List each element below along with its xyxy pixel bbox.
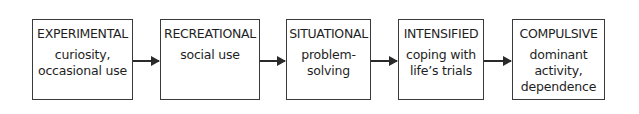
desc-line: problem- (287, 47, 370, 63)
desc-line: life’s trials (399, 63, 483, 79)
stage-description: coping with life’s trials (399, 47, 483, 79)
arrow-icon (371, 60, 397, 62)
arrow-icon (484, 60, 511, 62)
stage-description: problem- solving (287, 47, 370, 79)
desc-line: occasional use (33, 63, 132, 79)
stage-description: social use (161, 47, 259, 63)
stage-intensified: INTENSIFIED coping with life’s trials (398, 19, 484, 100)
arrow-icon (260, 60, 285, 62)
desc-line: curiosity, (33, 47, 132, 63)
stage-title: EXPERIMENTAL (33, 26, 132, 41)
stage-title: COMPULSIVE (513, 26, 604, 41)
desc-line: coping with (399, 47, 483, 63)
stage-compulsive: COMPULSIVE dominant activity, dependence (512, 19, 605, 100)
stage-title: INTENSIFIED (399, 26, 483, 41)
desc-line: social use (161, 47, 259, 63)
stage-recreational: RECREATIONAL social use (160, 19, 260, 100)
desc-line: solving (287, 63, 370, 79)
stage-situational: SITUATIONAL problem- solving (286, 19, 371, 100)
stage-title: SITUATIONAL (287, 26, 370, 41)
desc-line: dependence (513, 79, 604, 95)
stage-description: curiosity, occasional use (33, 47, 132, 79)
arrow-icon (133, 60, 159, 62)
stage-title: RECREATIONAL (161, 26, 259, 41)
stage-experimental: EXPERIMENTAL curiosity, occasional use (32, 19, 133, 100)
stage-description: dominant activity, dependence (513, 47, 604, 95)
desc-line: dominant (513, 47, 604, 63)
desc-line: activity, (513, 63, 604, 79)
